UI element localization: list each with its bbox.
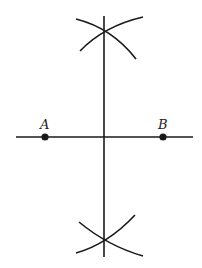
perpendicular-bisector-diagram: A B bbox=[0, 0, 202, 268]
point-b-marker bbox=[159, 133, 166, 140]
point-a-marker bbox=[41, 133, 48, 140]
point-b-label: B bbox=[157, 117, 168, 132]
top-arc-from-b bbox=[76, 19, 136, 59]
top-arc-from-a bbox=[80, 17, 143, 51]
bottom-arc-from-a bbox=[76, 215, 135, 253]
bottom-arc-from-b bbox=[79, 222, 143, 256]
point-a-label: A bbox=[39, 117, 49, 132]
